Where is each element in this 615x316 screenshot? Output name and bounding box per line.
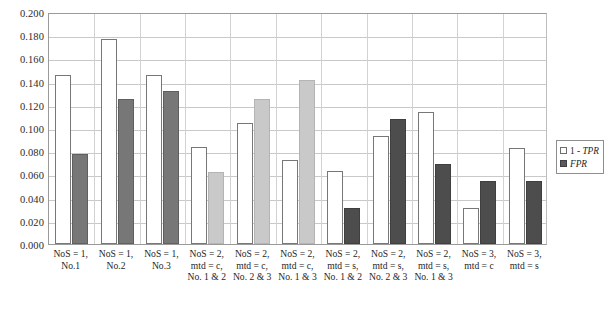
x-category-line: No. 1 & 2 — [320, 271, 365, 283]
bar-fpr — [254, 99, 270, 244]
legend-item-fpr: FPR — [560, 157, 599, 170]
x-category-line: mtd = s, — [366, 260, 411, 272]
x-category-line: NoS = 2, — [320, 248, 365, 260]
x-category-line: NoS = 2, — [229, 248, 274, 260]
x-category-line: mtd = c, — [275, 260, 320, 272]
bar-1-tpr — [463, 208, 479, 244]
x-category-line: NoS = 3, — [456, 248, 501, 260]
x-category-line: No. 2 & 3 — [366, 271, 411, 283]
x-category-line: No. 2 & 3 — [229, 271, 274, 283]
y-tick-label: 0.160 — [20, 54, 44, 65]
bar-fpr — [208, 172, 224, 244]
x-category-label: NoS = 2,mtd = s,No. 1 & 2 — [320, 248, 365, 283]
bar-chart: 0.2000.1800.1600.1400.1200.1000.0800.060… — [0, 0, 615, 316]
x-category-line: mtd = c — [456, 260, 501, 272]
bars-layer — [49, 14, 546, 244]
bar-1-tpr — [509, 148, 525, 244]
white-square-swatch-icon — [560, 147, 567, 154]
y-tick-label: 0.040 — [20, 193, 44, 204]
x-category-line: No. 1 & 3 — [411, 271, 456, 283]
chart-legend: 1 - TPR FPR — [556, 140, 604, 174]
bar-fpr — [390, 119, 406, 244]
bar-fpr — [163, 91, 179, 244]
x-category-label: NoS = 3,mtd = c — [456, 248, 501, 271]
y-tick-label: 0.100 — [20, 124, 44, 135]
y-tick-label: 0.180 — [20, 31, 44, 42]
x-category-line: mtd = s, — [320, 260, 365, 272]
y-tick-label: 0.120 — [20, 100, 44, 111]
x-category-line: No.3 — [139, 260, 184, 272]
legend-item-1-tpr: 1 - TPR — [560, 144, 599, 157]
bar-fpr — [344, 208, 360, 244]
x-category-label: NoS = 1,No.1 — [48, 248, 93, 271]
x-category-line: NoS = 2, — [366, 248, 411, 260]
y-tick-label: 0.000 — [20, 240, 44, 251]
bar-fpr — [526, 181, 542, 244]
bar-1-tpr — [282, 160, 298, 244]
x-category-line: NoS = 2, — [184, 248, 229, 260]
y-tick-label: 0.080 — [20, 147, 44, 158]
x-category-line: No.2 — [93, 260, 138, 272]
bar-1-tpr — [418, 112, 434, 244]
x-category-label: NoS = 2,mtd = s,No. 2 & 3 — [366, 248, 411, 283]
legend-label-1-tpr: 1 - TPR — [570, 146, 599, 156]
plot-area — [48, 13, 547, 245]
x-category-label: NoS = 2,mtd = c,No. 2 & 3 — [229, 248, 274, 283]
bar-fpr — [72, 154, 88, 244]
x-category-label: NoS = 2,mtd = c,No. 1 & 2 — [184, 248, 229, 283]
x-category-line: No.1 — [48, 260, 93, 272]
bar-1-tpr — [101, 39, 117, 244]
y-tick-label: 0.060 — [20, 170, 44, 181]
x-category-line: No. 1 & 3 — [275, 271, 320, 283]
y-axis: 0.2000.1800.1600.1400.1200.1000.0800.060… — [0, 0, 48, 316]
y-tick-label: 0.200 — [20, 8, 44, 19]
x-category-line: mtd = c, — [184, 260, 229, 272]
x-category-line: NoS = 1, — [139, 248, 184, 260]
bar-1-tpr — [327, 171, 343, 244]
x-category-label: NoS = 1,No.3 — [139, 248, 184, 271]
x-category-line: mtd = s, — [411, 260, 456, 272]
x-axis: NoS = 1,No.1NoS = 1,No.2NoS = 1,No.3NoS … — [48, 248, 547, 310]
bar-1-tpr — [237, 123, 253, 244]
x-category-line: NoS = 2, — [411, 248, 456, 260]
x-category-line: NoS = 2, — [275, 248, 320, 260]
x-category-label: NoS = 3,mtd = s — [502, 248, 547, 271]
y-tick-label: 0.140 — [20, 77, 44, 88]
bar-1-tpr — [55, 75, 71, 244]
x-category-line: NoS = 1, — [48, 248, 93, 260]
x-category-label: NoS = 2,mtd = s,No. 1 & 3 — [411, 248, 456, 283]
x-category-line: mtd = s — [502, 260, 547, 272]
bar-fpr — [299, 80, 315, 244]
y-tick-label: 0.020 — [20, 216, 44, 227]
x-category-label: NoS = 1,No.2 — [93, 248, 138, 271]
bar-fpr — [118, 99, 134, 244]
bar-1-tpr — [373, 136, 389, 244]
bar-fpr — [435, 164, 451, 244]
bar-1-tpr — [146, 75, 162, 244]
x-category-line: NoS = 1, — [93, 248, 138, 260]
legend-label-fpr: FPR — [570, 159, 587, 169]
dark-square-swatch-icon — [560, 160, 567, 167]
x-category-label: NoS = 2,mtd = c,No. 1 & 3 — [275, 248, 320, 283]
bar-fpr — [480, 181, 496, 244]
bar-1-tpr — [191, 147, 207, 244]
x-category-line: mtd = c, — [229, 260, 274, 272]
x-category-line: NoS = 3, — [502, 248, 547, 260]
x-category-line: No. 1 & 2 — [184, 271, 229, 283]
